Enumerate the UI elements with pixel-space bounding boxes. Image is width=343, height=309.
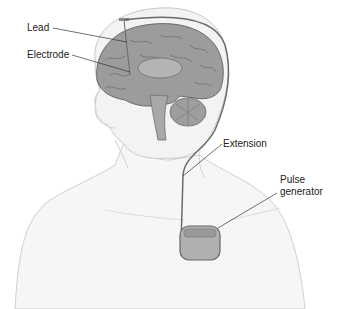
pulse-generator-header (184, 229, 216, 237)
label-generator: generator (280, 186, 323, 198)
anatomy-illustration (0, 0, 343, 309)
body-outline (15, 140, 305, 309)
thalamus (138, 58, 182, 78)
label-lead: Lead (27, 22, 49, 34)
label-electrode: Electrode (27, 49, 69, 61)
label-pulse: Pulse (280, 174, 305, 186)
dbs-diagram: Lead Electrode Extension Pulse generator (0, 0, 343, 309)
label-extension: Extension (223, 138, 267, 150)
